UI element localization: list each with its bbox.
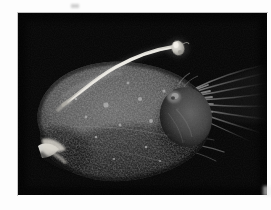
photo-frame xyxy=(0,0,271,210)
margin-speck xyxy=(71,4,79,8)
anglerfish-illustration xyxy=(18,13,267,195)
film-grain xyxy=(18,13,267,195)
plate-corner-highlight xyxy=(263,186,271,196)
anglerfish-photograph xyxy=(18,13,267,195)
